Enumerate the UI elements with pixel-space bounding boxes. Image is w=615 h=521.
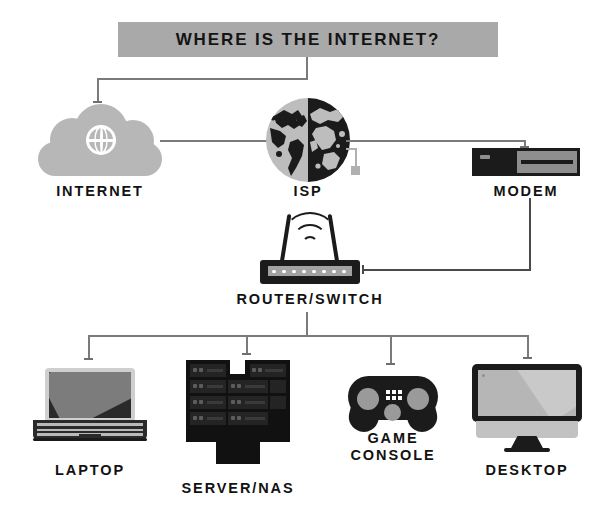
server-base xyxy=(216,442,260,464)
gamepad-body xyxy=(348,376,438,420)
desktop-monitor-icon xyxy=(472,364,582,452)
label-desktop: DESKTOP xyxy=(462,462,592,479)
globe-svg xyxy=(266,98,350,182)
connector-title-down xyxy=(306,57,308,79)
router-led-panel xyxy=(268,266,352,276)
connector-isp-stub-across xyxy=(346,148,356,150)
bus-bar xyxy=(88,335,528,337)
connector-internet-isp xyxy=(160,140,270,142)
label-router: ROUTER/SWITCH xyxy=(215,291,405,308)
gamepad-stick-right xyxy=(407,388,429,410)
connector-isp-stub-down xyxy=(355,148,357,166)
wifi-router-icon xyxy=(258,208,362,284)
title-banner: WHERE IS THE INTERNET? xyxy=(118,22,498,57)
connector-title-to-internet xyxy=(97,78,99,103)
label-isp: ISP xyxy=(266,183,350,200)
connector-bus-laptop xyxy=(88,335,90,360)
connector-isp-modem xyxy=(346,140,526,142)
connector-modem-to-router-h xyxy=(362,269,531,271)
modem-slot xyxy=(521,160,573,164)
gamepad-center-button xyxy=(384,404,401,421)
laptop-screen-glare xyxy=(49,372,131,418)
laptop-screen xyxy=(49,372,131,418)
arrow-cap-server xyxy=(242,353,251,355)
modem-icon xyxy=(472,148,580,176)
connector-title-across xyxy=(97,78,308,80)
laptop-lid xyxy=(45,368,135,422)
monitor-chin xyxy=(476,421,578,438)
laptop-foot xyxy=(33,438,147,441)
gamepad-button-cluster xyxy=(384,389,403,402)
monitor-bezel xyxy=(472,364,582,422)
laptop-icon xyxy=(33,368,147,442)
connector-modem-to-router-v xyxy=(529,198,531,270)
monitor-stand-foot xyxy=(504,448,550,452)
gamepad-icon xyxy=(348,370,438,426)
label-internet: INTERNET xyxy=(20,183,180,200)
server-notch xyxy=(230,360,245,374)
arrow-cap-laptop xyxy=(84,358,93,360)
arrow-cap-internet xyxy=(93,101,102,103)
wifi-arc-inner xyxy=(302,236,318,252)
globe-glyph-icon xyxy=(86,125,116,155)
connector-router-bus-down xyxy=(306,312,308,336)
modem-led xyxy=(480,155,490,159)
label-server: SERVER/NAS xyxy=(178,480,298,497)
webcam-icon xyxy=(482,374,485,377)
cloud-icon xyxy=(36,104,164,176)
gamepad-stick-left xyxy=(357,388,379,410)
monitor-screen xyxy=(478,370,576,416)
server-rack-body xyxy=(186,360,290,442)
server-rack-icon xyxy=(186,360,290,464)
arrow-cap-router-right xyxy=(362,265,364,274)
arrow-cap-desktop xyxy=(523,357,532,359)
connector-bus-server xyxy=(246,335,248,355)
arrow-cap-console xyxy=(386,363,395,365)
network-diagram: WHERE IS THE INTERNET? INTERNET xyxy=(0,0,615,521)
globe-icon xyxy=(266,98,350,182)
page-title: WHERE IS THE INTERNET? xyxy=(176,30,441,50)
router-body xyxy=(260,260,360,284)
label-modem: MODEM xyxy=(462,183,590,200)
connector-bus-console xyxy=(390,335,392,365)
label-console: GAME CONSOLE xyxy=(333,430,453,464)
monitor-screen-glare xyxy=(508,370,576,416)
isp-endpoint-node xyxy=(351,166,360,175)
connector-bus-desktop xyxy=(527,335,529,359)
label-laptop: LAPTOP xyxy=(20,462,160,479)
